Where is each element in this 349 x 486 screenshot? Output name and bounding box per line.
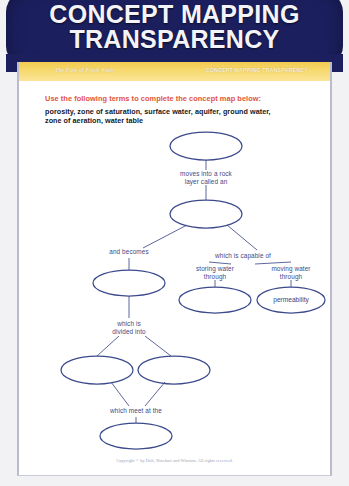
map-node-label-n5: permeability — [273, 296, 309, 304]
connector-n7-to-l7 — [145, 382, 165, 406]
link-label-l1-line2: layer called an — [185, 178, 228, 186]
link-label-l6-line1: which is — [116, 320, 141, 327]
map-node-n7[interactable] — [138, 356, 210, 384]
running-head-band: The Flow of Fresh Water CONCEPT MAPPING … — [19, 62, 330, 81]
concept-map-diagram: permeability moves into a rock layer cal… — [19, 128, 332, 458]
link-label-l1-line1: moves into a rock — [180, 170, 232, 177]
worksheet-page: The Flow of Fresh Water CONCEPT MAPPING … — [17, 62, 332, 476]
link-label-l7-line1: which meet at the — [109, 407, 162, 414]
concept-map: permeability moves into a rock layer cal… — [19, 128, 332, 458]
link-label-l6-line2: divided into — [112, 328, 146, 335]
running-head-left: The Flow of Fresh Water — [55, 67, 115, 73]
connector-l6-to-n6 — [97, 336, 119, 356]
connector-n2-to-l2 — [143, 225, 187, 248]
link-label-l4-line2: through — [204, 273, 227, 281]
link-label-l4-line1: storing water — [196, 265, 235, 273]
title-line-1: CONCEPT MAPPING — [6, 2, 343, 27]
term-bank: porosity, zone of saturation, surface wa… — [45, 107, 311, 126]
connector-l6-to-n7 — [145, 336, 171, 356]
instructions-block: Use the following terms to complete the … — [45, 94, 311, 126]
map-node-n1[interactable] — [170, 132, 242, 160]
link-label-l2-line1: and becomes — [109, 248, 148, 255]
transparency-sheet: CONCEPT MAPPING TRANSPARENCY The Flow of… — [0, 0, 349, 486]
term-bank-line-1: porosity, zone of saturation, surface wa… — [45, 107, 311, 116]
term-bank-line-2: zone of aeration, water table — [45, 116, 311, 125]
instructions-heading: Use the following terms to complete the … — [45, 94, 311, 104]
title-line-2: TRANSPARENCY — [6, 27, 343, 52]
map-node-n4[interactable] — [179, 287, 251, 313]
connector-l3-to-l4 — [209, 262, 231, 264]
connector-n6-to-l7 — [111, 382, 129, 406]
link-label-l5-line1: moving water — [271, 265, 311, 273]
link-label-l5-line2: through — [280, 273, 303, 281]
copyright-notice: Copyright © by Holt, Rinehart and Winsto… — [19, 458, 330, 463]
connector-n2-to-l3 — [227, 225, 257, 250]
map-node-n6[interactable] — [61, 356, 133, 384]
map-node-n3[interactable] — [93, 270, 165, 296]
page-title: CONCEPT MAPPING TRANSPARENCY — [6, 2, 343, 52]
map-node-n8[interactable] — [100, 423, 172, 449]
map-node-n2[interactable] — [170, 200, 242, 228]
running-head-right: CONCEPT MAPPING TRANSPARENCY — [206, 67, 308, 73]
map-node-labels: permeability — [273, 296, 309, 304]
connector-l3-to-l5 — [255, 262, 291, 264]
map-connectors — [97, 160, 291, 423]
map-link-labels: moves into a rock layer called an and be… — [109, 170, 311, 414]
link-label-l3-line1: which is capable of — [214, 252, 271, 260]
